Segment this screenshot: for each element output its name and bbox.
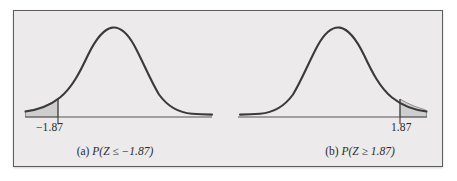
figure-root: −1.87 1.87 (a) P(Z ≤ −1.87) (b) P(Z ≥ 1.… bbox=[0, 0, 457, 181]
panel-a-tick-label: −1.87 bbox=[36, 121, 63, 133]
panel-b-caption: (b) P(Z ≥ 1.87) bbox=[285, 145, 435, 157]
panel-b-caption-expression: P(Z ≥ 1.87) bbox=[342, 145, 395, 157]
panel-a-caption-label: (a) bbox=[77, 145, 90, 157]
panel-b-tick-label: 1.87 bbox=[391, 121, 412, 133]
panel-b-caption-label: (b) bbox=[325, 145, 338, 157]
figure-frame bbox=[13, 10, 443, 167]
panel-a-caption-expression: P(Z ≤ −1.87) bbox=[92, 145, 153, 157]
panel-a-caption: (a) P(Z ≤ −1.87) bbox=[40, 145, 190, 157]
